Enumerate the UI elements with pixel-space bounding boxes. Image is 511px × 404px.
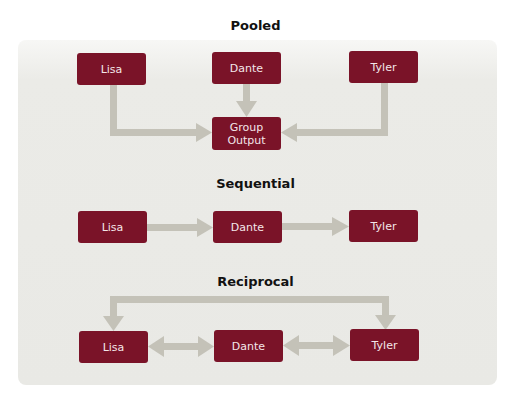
- node-sequential-tyler: Tyler: [349, 210, 418, 242]
- node-sequential-dante: Dante: [213, 211, 282, 243]
- arrow-lisa-to-output: [110, 84, 212, 142]
- arrow-tyler-to-output: [281, 83, 388, 142]
- node-reciprocal-tyler: Tyler: [350, 329, 419, 361]
- section-title-pooled: Pooled: [0, 18, 511, 33]
- section-title-reciprocal: Reciprocal: [0, 274, 511, 289]
- node-reciprocal-lisa: Lisa: [79, 331, 148, 363]
- node-pooled-dante: Dante: [212, 52, 281, 84]
- section-title-sequential: Sequential: [0, 176, 511, 191]
- node-reciprocal-dante: Dante: [214, 330, 283, 362]
- node-group-output: Group Output: [212, 117, 281, 150]
- arrow-dante-to-output: [236, 84, 257, 117]
- node-pooled-tyler: Tyler: [349, 51, 418, 83]
- node-sequential-lisa: Lisa: [78, 211, 147, 243]
- arrow-lisa-dante-two-way: [148, 336, 214, 357]
- arrow-dante-tyler-two-way: [283, 335, 350, 356]
- node-pooled-lisa: Lisa: [77, 53, 146, 85]
- arrow-lisa-tyler-over: [103, 296, 396, 331]
- arrow-lisa-to-dante: [147, 218, 213, 237]
- arrow-dante-to-tyler: [282, 217, 349, 236]
